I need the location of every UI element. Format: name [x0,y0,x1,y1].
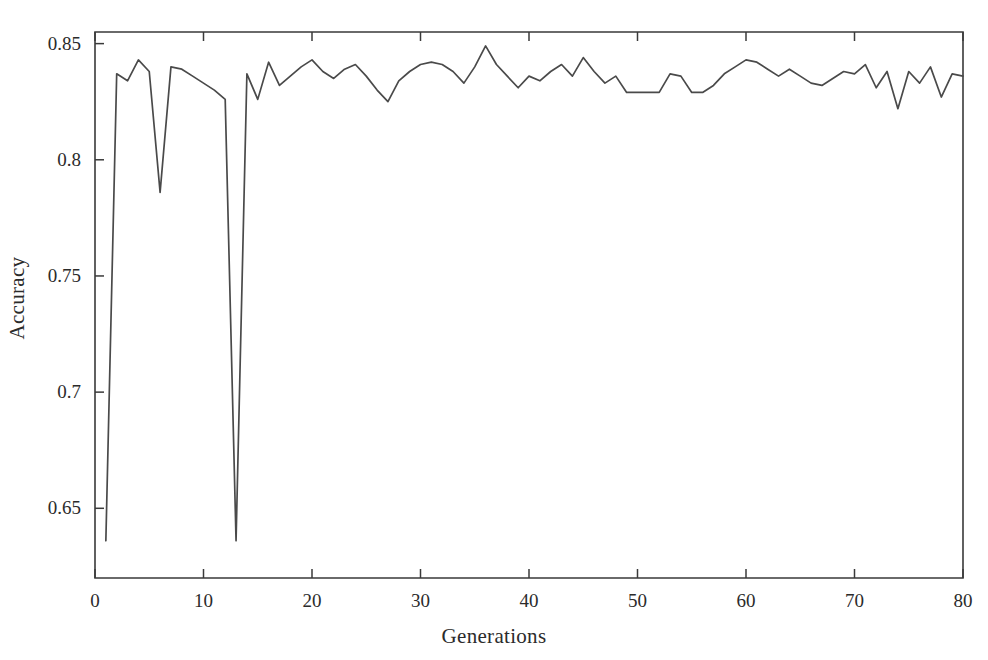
x-tick-label-20: 20 [303,590,322,612]
x-tick-label-30: 30 [411,590,430,612]
y-tick-label-0.8: 0.8 [0,149,81,171]
y-tick-label-0.85: 0.85 [0,33,81,55]
x-axis-title: Generations [0,624,988,649]
x-tick-label-0: 0 [90,590,100,612]
data-series-group [106,46,963,541]
x-tick-label-10: 10 [194,590,213,612]
y-tick-label-0.65: 0.65 [0,497,81,519]
x-tick-label-60: 60 [737,590,756,612]
accuracy-vs-generations-chart: 0.650.70.750.80.85 01020304050607080 Acc… [0,0,988,660]
x-tick-label-40: 40 [520,590,539,612]
y-axis-ticks [95,44,104,509]
y-tick-label-0.7: 0.7 [0,381,81,403]
x-tick-label-50: 50 [628,590,647,612]
y-axis-title: Accuracy [5,260,30,340]
x-tick-label-80: 80 [954,590,973,612]
plot-canvas [0,0,988,660]
x-tick-label-70: 70 [845,590,864,612]
accuracy-line [106,46,963,541]
